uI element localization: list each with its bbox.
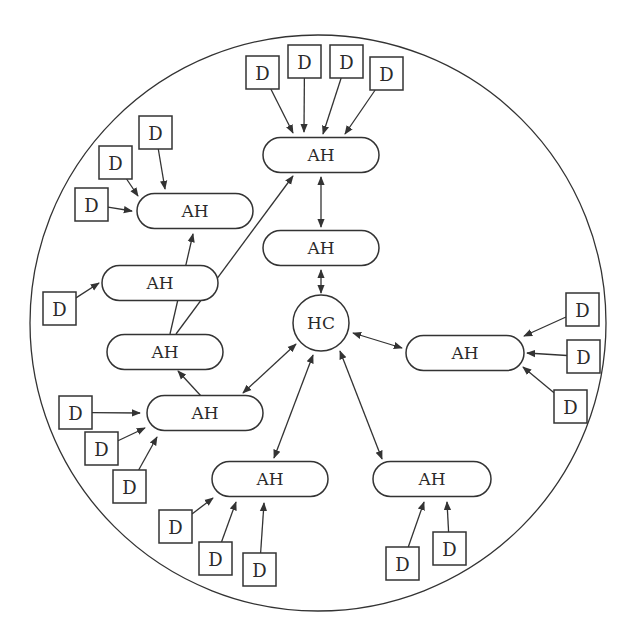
device-node[interactable]: D [75, 188, 108, 221]
device-link-d3 [323, 78, 341, 134]
device-node[interactable]: D [567, 340, 600, 373]
access-hub-label: AH [417, 469, 445, 489]
device-link-d13 [221, 502, 236, 542]
device-label: D [395, 554, 409, 575]
access-hub-label: AH [255, 469, 283, 489]
device-node[interactable]: D [59, 396, 92, 429]
access-hub-ah_left1[interactable]: AH [102, 266, 218, 301]
device-label: D [442, 539, 456, 560]
device-node[interactable]: D [85, 432, 118, 465]
device-link-d14 [261, 503, 264, 553]
device-node[interactable]: D [386, 547, 419, 580]
device-link-d17 [524, 317, 566, 336]
access-hub-label: AH [145, 273, 173, 293]
access-hub-ah_right[interactable]: AH [406, 336, 524, 371]
device-link-d6 [127, 179, 138, 196]
device-link-d15 [408, 502, 424, 547]
access-hub-ah_left2[interactable]: AH [107, 335, 223, 370]
device-label: D [94, 439, 108, 460]
device-label: D [108, 153, 122, 174]
access-hub-ah_top[interactable]: AH [263, 138, 379, 173]
device-link-d18 [527, 353, 567, 355]
edge-HC-ah_botright [340, 351, 382, 459]
access-hub-ah_lowleft[interactable]: AH [147, 396, 263, 431]
device-node[interactable]: D [433, 532, 466, 565]
access-hub-ah_upleft[interactable]: AH [137, 194, 253, 229]
device-label: D [563, 397, 577, 418]
device-label: D [68, 403, 82, 424]
device-node[interactable]: D [199, 542, 232, 575]
access-hub-label: AH [306, 238, 334, 258]
device-label: D [297, 52, 311, 73]
device-node[interactable]: D [288, 45, 321, 78]
edge-ah_lowleft-ah_left2 [178, 371, 201, 396]
device-label: D [575, 300, 589, 321]
device-label: D [252, 560, 266, 581]
device-link-d12 [192, 498, 213, 514]
device-node[interactable]: D [159, 510, 192, 543]
device-node[interactable]: D [554, 390, 587, 423]
device-link-d8 [76, 283, 99, 298]
access-hub-label: AH [180, 201, 208, 221]
device-node[interactable]: D [566, 293, 599, 326]
device-link-d4 [345, 90, 375, 134]
device-link-d1 [271, 89, 293, 133]
device-link-d19 [523, 367, 554, 393]
device-node[interactable]: D [246, 56, 279, 89]
network-diagram: AHAHAHAHAHAHAHAHAH DDDDDDDDDDDDDDDDDDD H… [0, 0, 634, 641]
access-hub-ah_botright[interactable]: AH [373, 462, 491, 497]
edge-HC-ah_right [353, 333, 402, 348]
device-link-d5 [158, 149, 165, 189]
device-label: D [576, 347, 590, 368]
device-label: D [255, 63, 269, 84]
access-hub-label: AH [150, 342, 178, 362]
device-node[interactable]: D [330, 45, 363, 78]
access-hub-label: AH [450, 343, 478, 363]
device-label: D [208, 549, 222, 570]
device-link-d10 [118, 428, 145, 441]
device-label: D [379, 64, 393, 85]
device-node[interactable]: D [139, 116, 172, 149]
device-label: D [339, 52, 353, 73]
access-hub-ah_mid[interactable]: AH [263, 231, 379, 266]
device-label: D [52, 299, 66, 320]
device-link-d11 [139, 437, 157, 470]
hub-controller-label: HC [307, 313, 335, 333]
device-label: D [148, 123, 162, 144]
access-hub-ah_botmid[interactable]: AH [212, 462, 328, 497]
device-label: D [84, 195, 98, 216]
access-hub-label: AH [306, 145, 334, 165]
device-node[interactable]: D [43, 292, 76, 325]
device-label: D [122, 477, 136, 498]
edge-HC-ah_botmid [274, 355, 313, 458]
edge-HC-ah_lowleft [243, 344, 296, 393]
device-link-d16 [447, 502, 449, 532]
device-node[interactable]: D [113, 470, 146, 503]
hub-layer: HC [293, 295, 349, 351]
hub-controller[interactable]: HC [293, 295, 349, 351]
device-link-d7 [108, 207, 132, 211]
access-hub-label: AH [190, 403, 218, 423]
device-node[interactable]: D [370, 57, 403, 90]
device-node[interactable]: D [99, 146, 132, 179]
device-label: D [168, 517, 182, 538]
device-node[interactable]: D [243, 553, 276, 586]
